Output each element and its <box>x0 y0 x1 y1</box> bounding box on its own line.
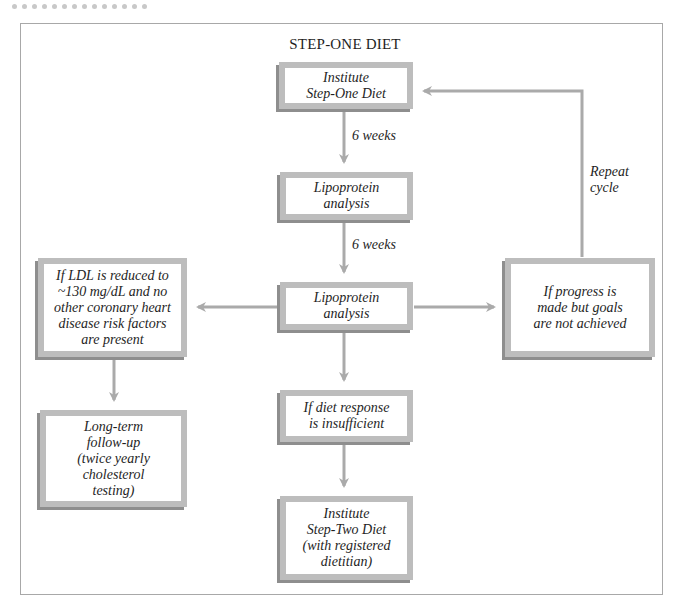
node-ldl-reduced: If LDL is reduced to ~130 mg/dL and no o… <box>38 258 187 357</box>
node-label: Lipoprotein analysis <box>286 178 407 214</box>
node-label: Lipoprotein analysis <box>286 288 407 324</box>
node-institute-step-two-diet: Institute Step-Two Diet (with registered… <box>280 496 413 580</box>
node-institute-step-one-diet: Institute Step-One Diet <box>279 62 413 109</box>
edge-label-six-weeks-2: 6 weeks <box>352 237 396 253</box>
arrow-repeat-cycle <box>424 91 582 257</box>
edge-label-repeat-cycle: Repeat cycle <box>590 164 629 196</box>
node-label: Institute Step-Two Diet (with registered… <box>286 502 407 574</box>
node-diet-response-insufficient: If diet response is insufficient <box>280 390 413 442</box>
node-label: If progress is made but goals are not ac… <box>511 264 649 351</box>
node-progress-not-achieved: If progress is made but goals are not ac… <box>505 258 655 357</box>
node-lipoprotein-analysis-1: Lipoprotein analysis <box>280 172 413 220</box>
node-label: Institute Step-One Diet <box>285 68 407 103</box>
node-long-term-followup: Long-term follow-up (twice yearly choles… <box>40 410 187 507</box>
node-label: Long-term follow-up (twice yearly choles… <box>46 416 181 501</box>
node-lipoprotein-analysis-2: Lipoprotein analysis <box>280 282 413 330</box>
node-label: If LDL is reduced to ~130 mg/dL and no o… <box>44 264 181 351</box>
node-label: If diet response is insufficient <box>286 396 407 436</box>
edge-label-six-weeks-1: 6 weeks <box>352 128 396 144</box>
